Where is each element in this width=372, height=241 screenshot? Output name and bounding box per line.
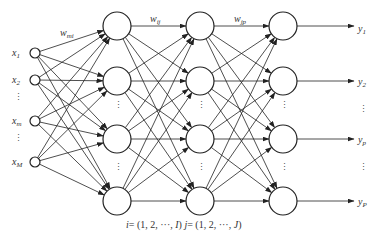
weight-label-wjp: wjp: [234, 14, 246, 27]
input-label-xM: xM: [12, 157, 22, 170]
hidden1-neuron: [103, 12, 131, 40]
output-neuron: [269, 67, 297, 95]
output-neuron: [269, 12, 297, 40]
input-node: [30, 75, 40, 85]
output-node-ellipsis-1: ⋮: [280, 104, 286, 107]
hidden1-ellipsis-1: ⋮: [114, 104, 120, 107]
edge: [39, 83, 106, 131]
output-ellipsis-1: ⋮: [359, 108, 365, 111]
output-node-ellipsis-2: ⋮: [280, 166, 286, 169]
output-neuron: [269, 187, 297, 215]
input-ellipsis-1: ⋮: [14, 96, 20, 99]
neural-network-diagram: x1 x2 ⋮ xm ⋮ xM wmi wij wjp ⋮ ⋮ ⋮ ⋮ ⋮ ⋮ …: [0, 0, 372, 241]
output-label-y2: y2: [358, 77, 366, 90]
hidden2-ellipsis-1: ⋮: [197, 104, 203, 107]
edge: [40, 80, 103, 81]
output-ellipsis-2: ⋮: [359, 166, 365, 169]
edge: [40, 55, 104, 77]
hidden2-neuron: [186, 125, 214, 153]
input-node: [30, 157, 40, 167]
output-label-yP: yP: [358, 197, 367, 210]
input-label-x1: x1: [12, 48, 20, 61]
edge: [37, 57, 110, 188]
hidden1-ellipsis-2: ⋮: [114, 166, 120, 169]
hidden1-neuron: [103, 187, 131, 215]
hidden2-neuron: [186, 187, 214, 215]
hidden2-ellipsis-2: ⋮: [197, 166, 203, 169]
input-label-xm: xm: [12, 116, 22, 129]
input-node: [30, 48, 40, 58]
weight-label-wij: wij: [150, 14, 161, 27]
connection-edges: [37, 26, 354, 201]
weight-label-wmi: wmi: [60, 28, 74, 41]
output-label-y1: y1: [358, 24, 366, 37]
network-graph: [0, 0, 372, 241]
input-node: [30, 116, 40, 126]
input-label-x2: x2: [12, 75, 20, 88]
hidden1-neuron: [103, 67, 131, 95]
output-neuron: [269, 125, 297, 153]
index-caption: i= (1, 2, ···, I) j= (1, 2, ···, J): [126, 219, 241, 230]
edge: [38, 57, 107, 129]
hidden1-neuron: [103, 125, 131, 153]
hidden2-neuron: [186, 12, 214, 40]
hidden2-neuron: [186, 67, 214, 95]
edge: [38, 84, 109, 189]
edge: [38, 38, 110, 158]
edge: [40, 143, 104, 161]
output-label-yp: yp: [358, 135, 366, 148]
input-ellipsis-2: ⋮: [14, 137, 20, 140]
